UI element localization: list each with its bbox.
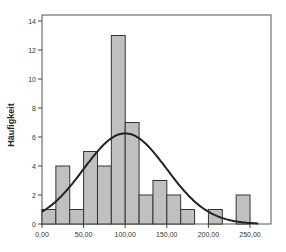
x-tick-label: 200,00 [198,231,220,238]
histogram-bar [97,166,111,224]
y-tick-label: 8 [32,105,36,112]
y-tick-label: 2 [32,192,36,199]
histogram-bar [167,195,181,224]
y-tick-label: 14 [28,18,36,25]
y-axis: 02468101214 [28,18,42,228]
x-tick-label: 0,00 [35,231,49,238]
histogram-bar [70,210,84,225]
histogram-bar [181,210,195,225]
histogram-bar [139,195,153,224]
histogram-bar [84,152,98,225]
y-tick-label: 0 [32,221,36,228]
x-axis: 0,0050,00100,00150,00200,00250,00 [35,224,261,238]
histogram-chart: 02468101214 0,0050,00100,00150,00200,002… [0,0,286,252]
y-tick-label: 6 [32,134,36,141]
x-tick-label: 250,00 [239,231,261,238]
histogram-bar [42,210,56,225]
histogram-bar [111,36,125,225]
y-tick-label: 4 [32,163,36,170]
x-tick-label: 150,00 [156,231,178,238]
histogram-bar [236,195,250,224]
y-axis-label: Häufigkeit [6,103,16,147]
y-tick-label: 10 [28,76,36,83]
y-tick-label: 12 [28,47,36,54]
x-tick-label: 50,00 [75,231,93,238]
x-tick-label: 100,00 [114,231,136,238]
histogram-bar [153,181,167,225]
